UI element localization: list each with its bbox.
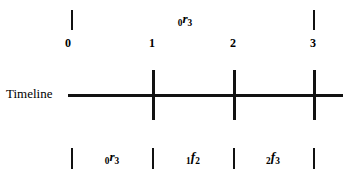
time-point-label-1: 1: [142, 37, 162, 49]
timeline-diagram: 0r3 0 1 2 3 Timeline 0r3 1f2 2f3: [0, 0, 348, 176]
bottom-interval-2-suffix: 3: [275, 156, 280, 166]
bottom-interval-1-suffix: 2: [195, 156, 200, 166]
time-point-label-2: 2: [223, 37, 243, 49]
timeline-axis-line: [68, 94, 343, 97]
time-point-label-3: 3: [303, 37, 323, 49]
time-point-label-0: 0: [58, 37, 78, 49]
top-interval-label-0r3: 0r3: [140, 12, 230, 28]
timeline-tick-3: [313, 70, 316, 120]
top-bracket-tick-start: [71, 10, 73, 30]
bottom-interval-label-2f3: 2f3: [228, 150, 318, 166]
timeline-axis-label: Timeline: [6, 87, 52, 100]
bottom-interval-label-0r3: 0r3: [67, 150, 157, 166]
top-bracket-tick-end: [313, 10, 315, 30]
timeline-tick-1: [152, 70, 155, 120]
top-interval-suffix: 3: [188, 18, 193, 28]
timeline-tick-2: [233, 70, 236, 120]
bottom-interval-0-suffix: 3: [115, 156, 120, 166]
bottom-interval-label-1f2: 1f2: [148, 150, 238, 166]
